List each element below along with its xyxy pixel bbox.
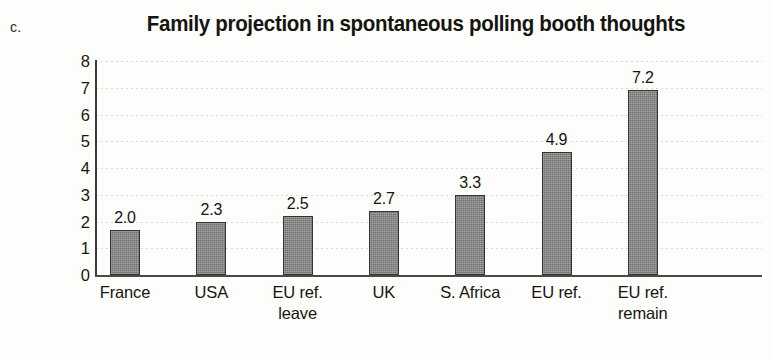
- bar-slot: 2.3: [196, 61, 226, 275]
- y-axis-tick-label: 7: [64, 80, 90, 97]
- bar-value-label: 2.7: [353, 191, 415, 207]
- category-label-line: leave: [246, 303, 350, 324]
- category-label-line: remain: [591, 303, 695, 324]
- bar-value-label: 7.2: [612, 70, 674, 86]
- plot-area: 2.02.32.52.73.34.97.2: [96, 61, 762, 275]
- y-axis-tick-label: 4: [64, 160, 90, 177]
- bar-chart: 012345678 2.02.32.52.73.34.97.2 FranceUS…: [0, 0, 773, 359]
- bar: [110, 230, 140, 275]
- bar: [196, 222, 226, 276]
- y-axis-tick-label: 5: [64, 133, 90, 150]
- bar-slot: 2.5: [283, 61, 313, 275]
- bar-slot: 2.7: [369, 61, 399, 275]
- bar: [369, 211, 399, 275]
- y-axis-tick-labels: 012345678: [60, 0, 90, 359]
- bar-value-label: 3.3: [439, 175, 501, 191]
- y-axis-tick-label: 6: [64, 107, 90, 124]
- bar: [283, 216, 313, 275]
- y-axis-line: [95, 60, 97, 276]
- bar-value-label: 2.3: [180, 202, 242, 218]
- x-axis-category-label: EU ref.remain: [591, 282, 695, 324]
- bar-slot: 7.2: [628, 61, 658, 275]
- bar-slot: 4.9: [542, 61, 572, 275]
- bar-value-label: 2.0: [94, 210, 156, 226]
- bar-value-label: 2.5: [267, 196, 329, 212]
- y-axis-tick-label: 2: [64, 214, 90, 231]
- bar: [455, 195, 485, 275]
- bar-slot: 3.3: [455, 61, 485, 275]
- y-axis-tick-label: 1: [64, 240, 90, 257]
- bar: [628, 90, 658, 275]
- x-axis-line: [95, 275, 762, 277]
- bar-slot: 2.0: [110, 61, 140, 275]
- bar: [542, 152, 572, 275]
- category-label-line: EU ref.: [591, 282, 695, 303]
- y-axis-tick-label: 8: [64, 53, 90, 70]
- bar-value-label: 4.9: [526, 132, 588, 148]
- y-axis-tick-label: 3: [64, 187, 90, 204]
